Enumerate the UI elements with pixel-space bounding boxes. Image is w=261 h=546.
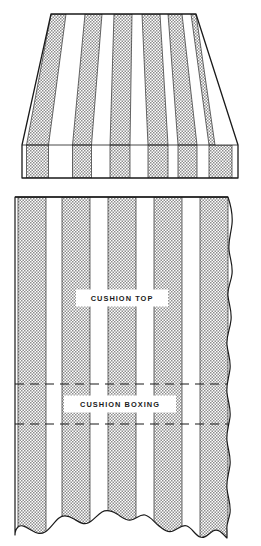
fabric-stripe	[62, 197, 90, 543]
cushion-top-label-text: CUSHION TOP	[91, 294, 154, 303]
fabric-stripe	[200, 197, 228, 543]
cushion-top-label: CUSHION TOP	[76, 290, 168, 307]
cushion-boxing-label: CUSHION BOXING	[64, 396, 176, 413]
fabric-stripe	[154, 197, 182, 543]
cushion-boxing-label-text: CUSHION BOXING	[80, 400, 160, 409]
cushion-top-face	[22, 14, 238, 145]
cushion-boxing-band	[22, 145, 238, 178]
fabric-stripe	[18, 197, 46, 543]
lower-fabric-panel: CUSHION TOP CUSHION BOXING	[10, 195, 238, 543]
figure-canvas: CUSHION TOP CUSHION BOXING	[0, 0, 261, 546]
cushion-diagram: CUSHION TOP CUSHION BOXING	[0, 0, 261, 546]
upper-cushion-view	[22, 14, 238, 178]
fabric-stripe	[108, 197, 136, 543]
